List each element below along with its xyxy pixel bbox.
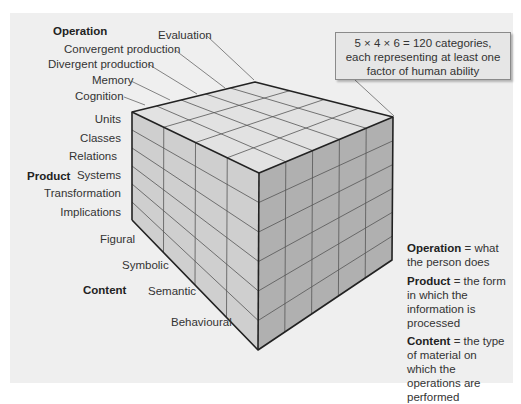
- product-label-units: Units: [95, 113, 121, 126]
- content-label-semantic: Semantic: [148, 285, 196, 298]
- legend-content: Content = the type of material on which …: [407, 334, 507, 404]
- categories-callout: 5 × 4 × 6 = 120 categories, each represe…: [335, 32, 511, 80]
- operation-label-cognition: Cognition: [75, 90, 124, 103]
- callout-line-1: 5 × 4 × 6 = 120 categories,: [336, 36, 510, 50]
- content-label-behavioural: Behavioural: [171, 316, 232, 329]
- product-label-transformation: Transformation: [44, 187, 121, 200]
- legend-product: Product = the form in which the informat…: [407, 274, 507, 330]
- product-heading: Product: [27, 170, 70, 182]
- content-label-figural: Figural: [100, 233, 135, 246]
- callout-line-3: factor of human ability: [336, 64, 510, 78]
- content-label-symbolic: Symbolic: [122, 259, 169, 272]
- operation-label-memory: Memory: [92, 74, 134, 87]
- legend-operation: Operation = what the person does: [407, 241, 507, 269]
- operation-label-evaluation: Evaluation: [158, 29, 212, 42]
- product-label-systems: Systems: [77, 169, 121, 182]
- legend-term: Content: [407, 335, 450, 347]
- operation-heading: Operation: [53, 25, 107, 37]
- product-label-implications: Implications: [60, 206, 121, 219]
- operation-label-divergent-production: Divergent production: [48, 58, 154, 71]
- legend-term: Operation: [407, 242, 461, 254]
- operation-label-convergent-production: Convergent production: [64, 43, 180, 56]
- product-label-classes: Classes: [80, 132, 121, 145]
- content-heading: Content: [83, 284, 126, 296]
- product-label-relations: Relations: [69, 150, 117, 163]
- legend-term: Product: [407, 275, 450, 287]
- callout-line-2: each representing at least one: [336, 50, 510, 64]
